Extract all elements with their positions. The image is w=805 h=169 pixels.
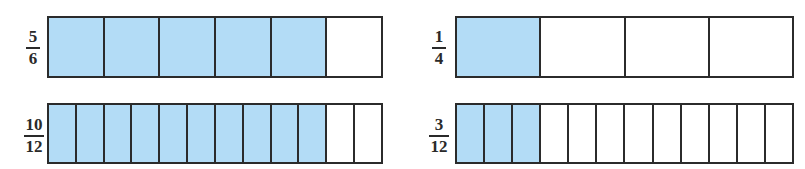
fraction-label: 5 6	[26, 28, 40, 68]
unshaded-part	[327, 18, 381, 76]
shaded-part	[272, 18, 328, 76]
shaded-part	[105, 105, 133, 162]
fraction-label: 1 4	[432, 28, 446, 68]
shaded-part	[160, 18, 216, 76]
fraction-strip	[455, 16, 794, 78]
fraction-strip	[47, 16, 383, 78]
shaded-part	[299, 105, 327, 162]
unshaded-part	[710, 18, 792, 76]
shaded-part	[160, 105, 188, 162]
shaded-part	[244, 105, 272, 162]
unshaded-part	[654, 105, 682, 162]
shaded-part	[216, 18, 272, 76]
unshaded-part	[625, 105, 653, 162]
shaded-part	[77, 105, 105, 162]
shaded-part	[457, 105, 485, 162]
numerator: 5	[26, 28, 40, 46]
unshaded-part	[738, 105, 766, 162]
fraction-label: 3 12	[429, 116, 449, 156]
shaded-part	[105, 18, 161, 76]
shaded-part	[457, 18, 541, 76]
fraction-strip	[47, 103, 383, 164]
unshaded-part	[541, 105, 569, 162]
unshaded-part	[355, 105, 381, 162]
unshaded-part	[766, 105, 792, 162]
unshaded-part	[682, 105, 710, 162]
unshaded-part	[626, 18, 710, 76]
shaded-part	[132, 105, 160, 162]
unshaded-part	[541, 18, 625, 76]
unshaded-part	[710, 105, 738, 162]
denominator: 6	[26, 50, 40, 68]
unshaded-part	[569, 105, 597, 162]
shaded-part	[49, 18, 105, 76]
unshaded-part	[327, 105, 355, 162]
fraction-strip	[455, 103, 794, 164]
numerator: 3	[429, 116, 449, 134]
shaded-part	[272, 105, 300, 162]
unshaded-part	[597, 105, 625, 162]
shaded-part	[188, 105, 216, 162]
denominator: 4	[432, 50, 446, 68]
shaded-part	[485, 105, 513, 162]
fraction-label: 10 12	[24, 116, 44, 156]
denominator: 12	[24, 138, 44, 156]
shaded-part	[216, 105, 244, 162]
numerator: 1	[432, 28, 446, 46]
shaded-part	[49, 105, 77, 162]
numerator: 10	[24, 116, 44, 134]
denominator: 12	[429, 138, 449, 156]
shaded-part	[513, 105, 541, 162]
